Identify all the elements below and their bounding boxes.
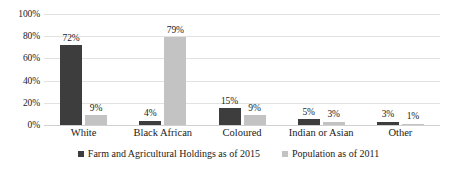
bar-group: 4%79% — [123, 14, 202, 125]
bar-value-label: 5% — [302, 108, 314, 118]
bar-value-label: 4% — [144, 109, 156, 119]
bar[interactable] — [60, 45, 82, 125]
bar-value-label: 1% — [407, 112, 419, 122]
x-axis-category-label: Black African — [123, 127, 202, 143]
bar-group: 15%9% — [202, 14, 281, 125]
bar-pair: 3%1% — [361, 14, 440, 125]
bar-value-label: 79% — [167, 26, 184, 36]
bar-column: 4% — [139, 14, 161, 125]
bar-value-label: 72% — [63, 34, 80, 44]
bar-column: 3% — [377, 14, 399, 125]
bar-group: 3%1% — [361, 14, 440, 125]
y-axis-tick-label: 0% — [28, 120, 40, 130]
bar[interactable] — [244, 115, 266, 125]
bar-column: 1% — [402, 14, 424, 125]
bar[interactable] — [219, 108, 241, 125]
legend-swatch-icon — [282, 151, 288, 157]
y-axis-tick-label: 60% — [23, 53, 40, 63]
bar[interactable] — [298, 119, 320, 125]
chart-legend: Farm and Agricultural Holdings as of 201… — [0, 148, 457, 159]
bar-group: 72%9% — [44, 14, 123, 125]
x-axis-category-label: Other — [361, 127, 440, 143]
bar-group: 5%3% — [282, 14, 361, 125]
legend-item[interactable]: Population as of 2011 — [282, 148, 379, 159]
y-axis-tick-label: 100% — [18, 9, 40, 19]
x-axis-category-label: Coloured — [202, 127, 281, 143]
x-axis-category-label: Indian or Asian — [282, 127, 361, 143]
bar-column: 15% — [219, 14, 241, 125]
bar[interactable] — [402, 124, 424, 125]
bar-column: 72% — [60, 14, 82, 125]
x-axis-category-label: White — [44, 127, 123, 143]
bar[interactable] — [323, 122, 345, 125]
bar-groups: 72%9%4%79%15%9%5%3%3%1% — [44, 14, 440, 125]
legend-label: Population as of 2011 — [292, 148, 379, 159]
legend-swatch-icon — [78, 151, 84, 157]
axis-baseline — [44, 125, 440, 126]
bar-value-label: 15% — [221, 97, 238, 107]
bar-column: 5% — [298, 14, 320, 125]
bar[interactable] — [85, 115, 107, 125]
bar-chart: 100%80%60%40%20%0% 72%9%4%79%15%9%5%3%3%… — [0, 0, 457, 171]
bar-pair: 5%3% — [282, 14, 361, 125]
bar-pair: 72%9% — [44, 14, 123, 125]
bar[interactable] — [139, 121, 161, 125]
bar-value-label: 9% — [90, 104, 102, 114]
bar-column: 3% — [323, 14, 345, 125]
bar[interactable] — [164, 37, 186, 125]
y-axis-tick-label: 20% — [23, 98, 40, 108]
legend-label: Farm and Agricultural Holdings as of 201… — [88, 148, 260, 159]
y-axis: 100%80%60%40%20%0% — [0, 14, 40, 125]
bar-value-label: 9% — [248, 104, 260, 114]
bar-value-label: 3% — [327, 110, 339, 120]
bar-column: 9% — [85, 14, 107, 125]
x-axis: WhiteBlack AfricanColouredIndian or Asia… — [44, 127, 440, 143]
y-axis-tick-label: 40% — [23, 76, 40, 86]
legend-item[interactable]: Farm and Agricultural Holdings as of 201… — [78, 148, 260, 159]
bar-pair: 15%9% — [202, 14, 281, 125]
bar[interactable] — [377, 122, 399, 125]
bar-value-label: 3% — [382, 110, 394, 120]
bar-column: 79% — [164, 14, 186, 125]
y-axis-tick-label: 80% — [23, 31, 40, 41]
bar-pair: 4%79% — [123, 14, 202, 125]
bar-column: 9% — [244, 14, 266, 125]
